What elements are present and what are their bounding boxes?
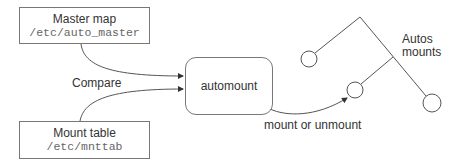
compare-label: Compare (72, 76, 121, 90)
mnttab-to-automount-arrow (80, 89, 183, 121)
master-to-automount-arrow (81, 44, 183, 76)
master-map-title: Master map (20, 12, 149, 26)
master-map-box: Master map /etc/auto_master (19, 7, 150, 44)
master-map-path: /etc/auto_master (20, 26, 149, 40)
mount-table-title: Mount table (20, 126, 149, 140)
mount-or-unmount-label: mount or unmount (264, 118, 361, 132)
tree-node-left (301, 51, 317, 67)
automount-to-mount-arrow (270, 98, 347, 114)
tree-node-middle (347, 82, 363, 98)
autos-mounts-label: Autos mounts (402, 33, 441, 59)
automount-box: automount (185, 57, 273, 115)
mount-table-path: /etc/mnttab (20, 140, 149, 154)
mount-table-box: Mount table /etc/mnttab (19, 121, 150, 159)
autos-mounts-line-2: mounts (402, 46, 441, 59)
tree-node-right (423, 94, 441, 112)
automount-label: automount (201, 79, 258, 93)
